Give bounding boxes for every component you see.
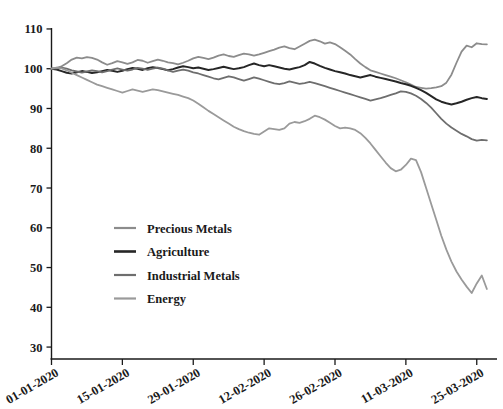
chart-legend: Precious MetalsAgricultureIndustrial Met… xyxy=(114,222,240,307)
y-tick-label: 40 xyxy=(30,301,43,315)
x-tick-label: 15-01-2020 xyxy=(74,365,132,406)
legend-label-agriculture: Agriculture xyxy=(147,245,210,259)
x-tick-label: 25-03-2020 xyxy=(429,365,487,406)
x-tick-label: 29-01-2020 xyxy=(145,365,203,406)
x-tick-label: 01-01-2020 xyxy=(3,365,61,406)
x-axis-tick-labels: 01-01-202015-01-202029-01-202012-02-2020… xyxy=(3,365,486,406)
x-tick-label: 11-03-2020 xyxy=(358,365,415,406)
legend-label-industrial-metals: Industrial Metals xyxy=(147,269,240,283)
series-line-industrial-metals xyxy=(52,68,487,141)
x-tick-label: 12-02-2020 xyxy=(216,365,274,406)
y-tick-label: 50 xyxy=(30,261,43,275)
commodity-index-chart: 30405060708090100110 01-01-202015-01-202… xyxy=(0,0,503,409)
chart-canvas: 30405060708090100110 01-01-202015-01-202… xyxy=(0,0,503,409)
legend-label-precious-metals: Precious Metals xyxy=(147,222,232,236)
x-tick-label: 26-02-2020 xyxy=(287,365,345,406)
series-line-energy xyxy=(52,68,487,293)
y-axis-tick-labels: 30405060708090100110 xyxy=(24,22,43,354)
y-axis-ticks xyxy=(47,29,52,347)
y-tick-label: 60 xyxy=(30,221,43,235)
legend-label-energy: Energy xyxy=(147,292,187,306)
y-tick-label: 110 xyxy=(24,22,42,36)
y-axis-group: 30405060708090100110 xyxy=(24,22,52,359)
y-tick-label: 80 xyxy=(30,142,43,156)
x-axis-group: 01-01-202015-01-202029-01-202012-02-2020… xyxy=(3,359,497,407)
y-tick-label: 70 xyxy=(30,182,43,196)
y-tick-label: 30 xyxy=(30,341,43,355)
y-tick-label: 100 xyxy=(24,62,43,76)
series-lines xyxy=(52,40,487,293)
x-axis-ticks xyxy=(52,359,477,365)
y-tick-label: 90 xyxy=(30,102,43,116)
